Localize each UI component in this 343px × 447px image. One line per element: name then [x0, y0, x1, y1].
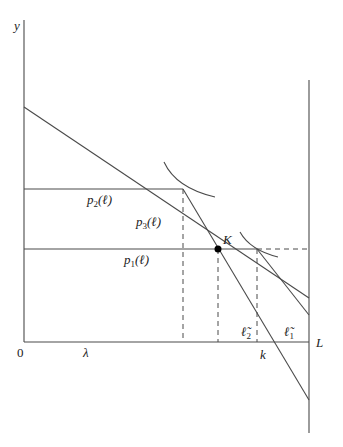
y-axis-label: y — [12, 18, 20, 33]
diagram-canvas: y 0 L λ k K p2(ℓ) p3(ℓ) p1(ℓ) ℓ̃2 ℓ̃1 — [0, 0, 343, 447]
l-tilde-2-label: ℓ̃2 — [241, 324, 252, 341]
lambda-label: λ — [82, 345, 89, 360]
lower-indifference-curve — [240, 232, 278, 257]
steep-line-through-k — [183, 189, 309, 400]
l-tilde-1-label: ℓ̃1 — [284, 324, 295, 341]
p3-label: p3(ℓ) — [135, 214, 161, 231]
k-label: k — [260, 347, 266, 362]
point-k-label: K — [222, 232, 233, 247]
origin-label: 0 — [17, 345, 24, 360]
point-k — [215, 246, 222, 253]
parallel-steep-line — [257, 249, 309, 315]
p3-diagonal-line — [24, 107, 309, 298]
p2-label: p2(ℓ) — [86, 192, 112, 209]
p1-label: p1(ℓ) — [123, 252, 149, 269]
x-axis-label-l: L — [315, 335, 323, 350]
upper-indifference-curve — [164, 162, 215, 197]
